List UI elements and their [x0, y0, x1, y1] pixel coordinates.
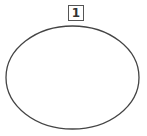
ellipse-shape: [0, 0, 147, 136]
ellipse: [6, 26, 139, 129]
